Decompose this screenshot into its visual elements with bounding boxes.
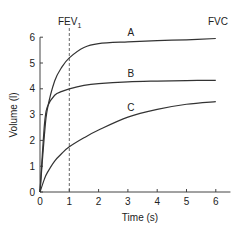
- curve-b: [40, 80, 216, 192]
- fev1-label: FEV1: [58, 16, 81, 29]
- axes: 01234560123456: [29, 32, 230, 207]
- y-tick-label: 4: [29, 83, 35, 94]
- spirometry-chart: 01234560123456 ABC FEV1 FVC Time (s) Vol…: [0, 0, 241, 230]
- x-tick-label: 4: [154, 196, 160, 207]
- y-tick-label: 3: [29, 109, 35, 120]
- x-tick-label: 2: [96, 196, 102, 207]
- x-tick-label: 3: [125, 196, 131, 207]
- curve-labels: ABC: [127, 27, 134, 113]
- y-axis-title: Volume (l): [8, 92, 19, 137]
- x-tick-label: 0: [37, 196, 43, 207]
- curve-label-a: A: [127, 27, 134, 38]
- y-tick-label: 1: [29, 161, 35, 172]
- curve-c: [40, 102, 216, 192]
- x-axis-title: Time (s): [122, 212, 158, 223]
- x-tick-label: 6: [213, 196, 219, 207]
- curve-label-b: B: [127, 68, 134, 79]
- curve-a: [40, 38, 216, 192]
- y-tick-label: 0: [29, 187, 35, 198]
- x-tick-label: 5: [184, 196, 190, 207]
- fvc-label: FVC: [208, 16, 228, 27]
- x-tick-label: 1: [67, 196, 73, 207]
- curve-label-c: C: [127, 102, 134, 113]
- y-tick-label: 2: [29, 135, 35, 146]
- y-tick-label: 6: [29, 32, 35, 43]
- curves: [40, 38, 216, 192]
- y-tick-label: 5: [29, 58, 35, 69]
